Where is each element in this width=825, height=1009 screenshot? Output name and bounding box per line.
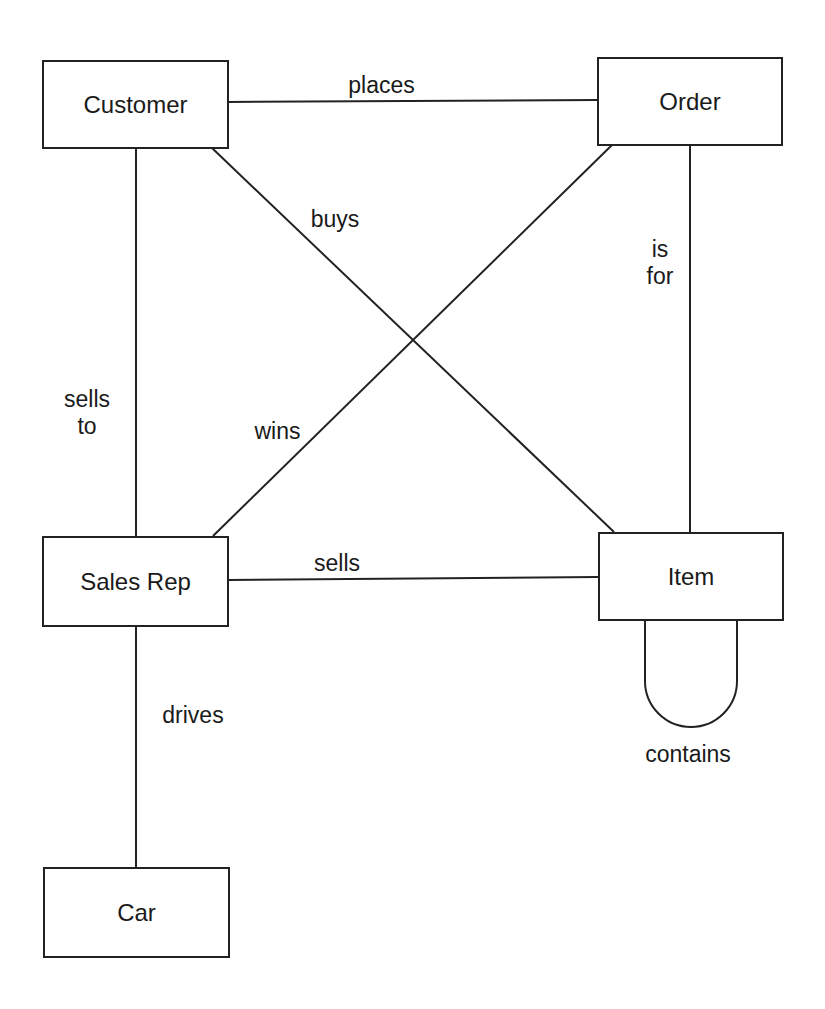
- entity-item-label: Item: [668, 563, 715, 591]
- label-sells-to-line2: to: [52, 413, 122, 440]
- entity-sales-rep-label: Sales Rep: [80, 568, 191, 596]
- label-is-for-line1: is: [635, 236, 685, 263]
- entity-customer-label: Customer: [83, 91, 187, 119]
- edge-sells: [228, 577, 598, 580]
- label-sells-to-line1: sells: [52, 386, 122, 413]
- label-is-for: is for: [635, 236, 685, 290]
- edge-places: [228, 100, 597, 102]
- entity-item[interactable]: Item: [598, 532, 784, 621]
- entity-order[interactable]: Order: [597, 57, 783, 146]
- edge-wins: [213, 145, 612, 536]
- label-wins: wins: [240, 418, 315, 445]
- label-contains: contains: [628, 741, 748, 768]
- label-is-for-line2: for: [635, 263, 685, 290]
- label-buys: buys: [300, 206, 370, 233]
- entity-customer[interactable]: Customer: [42, 60, 229, 149]
- relationship-lines: [0, 0, 825, 1009]
- entity-sales-rep[interactable]: Sales Rep: [42, 536, 229, 627]
- label-places: places: [334, 72, 429, 99]
- entity-car[interactable]: Car: [43, 867, 230, 958]
- entity-car-label: Car: [117, 899, 156, 927]
- entity-order-label: Order: [659, 88, 720, 116]
- label-sells-to: sells to: [52, 386, 122, 440]
- label-sells: sells: [302, 550, 372, 577]
- edge-contains-loop: [645, 620, 737, 727]
- label-drives: drives: [148, 702, 238, 729]
